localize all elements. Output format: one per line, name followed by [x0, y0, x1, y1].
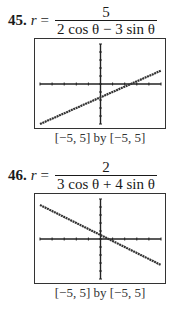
problem-number: 46. [8, 167, 27, 184]
equation-45: 45. r = 5 2 cos θ − 3 sin θ [8, 4, 157, 36]
equation-46: 46. r = 2 3 cos θ + 4 sin θ [8, 159, 157, 191]
numerator: 5 [100, 5, 112, 20]
graph-45 [34, 38, 166, 129]
numerator: 2 [100, 160, 112, 175]
problem-number: 45. [8, 12, 27, 29]
fraction: 5 2 cos θ − 3 sin θ [55, 5, 157, 36]
window-caption: [−5, 5] by [−5, 5] [34, 130, 166, 146]
equals-sign: = [41, 12, 49, 29]
variable-r: r [31, 12, 37, 29]
variable-r: r [31, 167, 37, 184]
graph-45-plot [35, 39, 167, 130]
graph-46 [34, 193, 166, 284]
window-caption: [−5, 5] by [−5, 5] [34, 285, 166, 301]
graph-46-plot [35, 194, 167, 285]
equals-sign: = [41, 167, 49, 184]
denominator: 3 cos θ + 4 sin θ [55, 175, 157, 191]
denominator: 2 cos θ − 3 sin θ [55, 20, 157, 36]
fraction: 2 3 cos θ + 4 sin θ [55, 160, 157, 191]
